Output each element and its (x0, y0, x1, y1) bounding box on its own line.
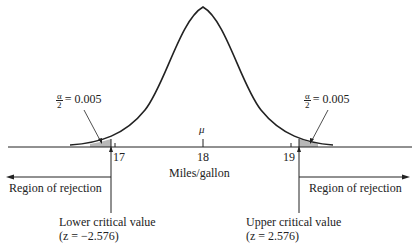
right-arrowhead-icon (402, 175, 410, 180)
right-rejection-label: Region of rejection (309, 182, 402, 195)
left-alpha-value: = 0.005 (65, 92, 102, 106)
left-rejection-label: Region of rejection (9, 182, 102, 195)
upper-critical-label: Upper critical value (246, 216, 341, 229)
left-arrowhead-icon (6, 175, 14, 180)
tick-label-17: 17 (113, 151, 125, 164)
left-alpha-pointer (84, 110, 101, 142)
normal-distribution-diagram (0, 0, 416, 246)
right-alpha-fraction: α 2 (304, 92, 311, 109)
upper-critical-z: (z = 2.576) (246, 230, 299, 243)
right-alpha-value: = 0.005 (313, 92, 350, 106)
axis-label: Miles/gallon (169, 167, 230, 180)
left-alpha-label: α 2 = 0.005 (56, 92, 102, 109)
tick-label-19: 19 (283, 151, 295, 164)
left-alpha-fraction: α 2 (56, 92, 63, 109)
right-alpha-pointer (311, 110, 328, 142)
lower-critical-z: (z = −2.576) (59, 230, 119, 243)
right-alpha-denominator: 2 (304, 101, 311, 109)
mean-symbol: μ (199, 123, 205, 136)
right-alpha-label: α 2 = 0.005 (304, 92, 350, 109)
tick-label-18: 18 (197, 151, 209, 164)
left-alpha-denominator: 2 (56, 101, 63, 109)
lower-critical-label: Lower critical value (59, 216, 156, 229)
